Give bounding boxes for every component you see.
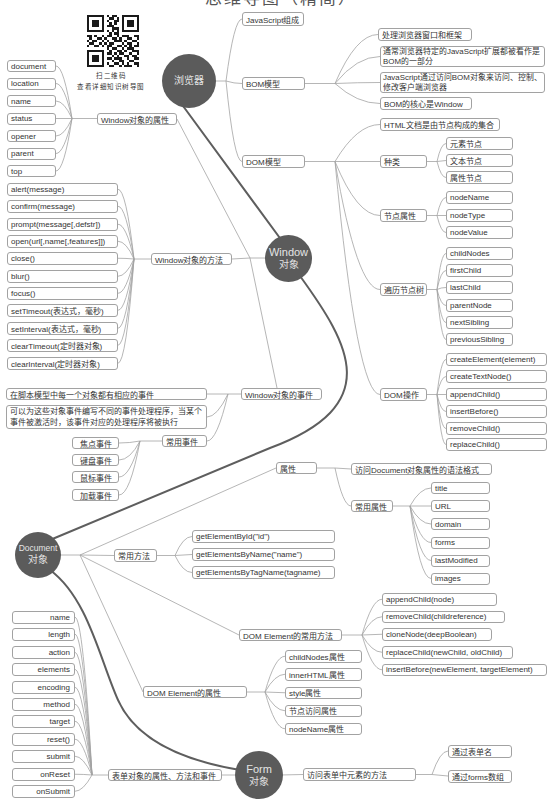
window-methods-topic: Window对象的方法 bbox=[151, 253, 232, 265]
dom-traverse-item: firstChild bbox=[446, 264, 513, 277]
window-method-item: setTimeout(表达式，毫秒) bbox=[7, 304, 118, 317]
connector bbox=[437, 144, 446, 162]
connector bbox=[335, 162, 380, 216]
form-object-label-line2: 对象 bbox=[249, 776, 269, 788]
dom-node-prop-item: nodeType bbox=[446, 209, 513, 222]
connector bbox=[335, 468, 351, 469]
form-access-topic: 访问表单中元素的方法 bbox=[303, 768, 416, 781]
browser-topic-circle: 浏览器 bbox=[162, 54, 216, 108]
node-js-composition: JavaScript组成 bbox=[242, 12, 304, 26]
window-method-item: setInterval(表达式，毫秒) bbox=[7, 322, 118, 335]
document-object-label-line2: 对象 bbox=[28, 554, 48, 566]
dom-op-item: createTextNode() bbox=[446, 370, 547, 383]
connector bbox=[207, 394, 228, 441]
form-member-item: action bbox=[12, 646, 75, 659]
connector bbox=[335, 125, 380, 162]
common-events-topic: 常用事件 bbox=[162, 435, 207, 447]
form-member-item: elements bbox=[12, 663, 75, 676]
dom-traverse-item: previousSibling bbox=[446, 333, 513, 346]
common-event-item: 焦点事件 bbox=[72, 437, 119, 449]
connector bbox=[437, 198, 446, 216]
browser-topic-label: 浏览器 bbox=[174, 75, 204, 87]
dom-element-methods-topic: DOM Element的常用方法 bbox=[239, 629, 342, 641]
dom-element-method-item: cloneNode(deepBoolean) bbox=[382, 628, 492, 641]
window-property-item: name bbox=[7, 95, 56, 107]
dom-node-prop-item: nodeName bbox=[446, 191, 513, 204]
form-member-item: reset() bbox=[12, 733, 75, 746]
dom-element-property-item: childNodes属性 bbox=[285, 650, 362, 663]
form-object-circle: Form 对象 bbox=[235, 751, 283, 799]
document-object-circle: Document 对象 bbox=[15, 532, 61, 578]
connector bbox=[437, 216, 446, 233]
document-method-item: getElementById("id") bbox=[192, 530, 335, 543]
qr-code-icon bbox=[86, 15, 140, 67]
dom-intro: HTML文档是由节点构成的集合 bbox=[380, 118, 500, 131]
dom-node-prop-item: nodeValue bbox=[446, 226, 513, 239]
connector bbox=[175, 556, 192, 573]
window-events-topic: Window对象的事件 bbox=[241, 388, 322, 400]
connector bbox=[335, 468, 351, 506]
form-access-item: 通过表单名 bbox=[448, 745, 512, 758]
document-properties-topic: 属性 bbox=[276, 462, 317, 474]
dom-element-method-item: removeChild(childreference) bbox=[382, 611, 505, 624]
connector bbox=[410, 488, 431, 506]
window-object-label-line1: Window bbox=[269, 246, 308, 259]
window-property-item: document bbox=[7, 60, 56, 72]
form-member-item: onReset bbox=[12, 768, 75, 781]
dom-kinds: 种类 bbox=[380, 155, 427, 168]
bom-item: 通常浏览器特定的JavaScript扩展都被看作是BOM的一部分 bbox=[380, 46, 545, 67]
dom-op-item: replaceChild() bbox=[446, 438, 547, 451]
dom-op-item: appendChild() bbox=[446, 388, 547, 401]
bom-item: JavaScript通过访问BOM对象来访问、控制、修改客户端浏览器 bbox=[380, 72, 545, 93]
bom-item: BOM的核心是Window bbox=[380, 97, 472, 110]
node-bom-model: BOM模型 bbox=[242, 77, 305, 90]
connector bbox=[265, 692, 285, 693]
form-object-label-line1: Form bbox=[246, 763, 272, 776]
window-property-item: status bbox=[7, 113, 56, 125]
dom-op-item: createElement(element) bbox=[446, 353, 547, 366]
window-method-item: clearTimeout(定时器对象) bbox=[7, 339, 118, 352]
common-event-item: 键盘事件 bbox=[72, 454, 119, 466]
bom-item: 处理浏览器窗口和框架 bbox=[378, 28, 472, 41]
window-properties-topic: Window对象的属性 bbox=[97, 113, 177, 125]
connector bbox=[175, 555, 192, 556]
connector bbox=[335, 57, 380, 84]
connector bbox=[432, 775, 448, 777]
window-property-item: top bbox=[7, 165, 56, 177]
window-event-note: 可以为这些对象事件编写不同的事件处理程序，当某个事件被激活时，该事件对应的处理程… bbox=[6, 405, 207, 429]
window-object-central-circle: Window 对象 bbox=[265, 235, 312, 282]
dom-traverse-item: nextSibling bbox=[446, 316, 513, 329]
document-common-methods-topic: 常用方法 bbox=[114, 549, 157, 562]
mind-map-canvas: 思维导图（精简） 扫二维码 查看详细知识树导图 浏览器 Window 对象 Do… bbox=[0, 0, 551, 803]
dom-op-item: insertBefore() bbox=[446, 405, 547, 418]
dom-traverse-item: lastChild bbox=[446, 281, 513, 294]
document-object-label-line1: Document bbox=[19, 544, 58, 554]
document-common-property-item: URL bbox=[431, 500, 490, 512]
document-common-property-item: domain bbox=[431, 518, 490, 530]
document-method-item: getElementsByTagName(tagname) bbox=[192, 566, 335, 579]
common-event-item: 鼠标事件 bbox=[72, 471, 119, 483]
connector bbox=[432, 751, 448, 775]
window-method-item: prompt(message[,defstr]) bbox=[7, 218, 118, 231]
connector bbox=[362, 634, 382, 635]
connector bbox=[118, 258, 134, 259]
window-event-note: 在脚本模型中每一个对象都有相应的事件 bbox=[6, 388, 207, 400]
dom-element-method-item: insertBefore(newElement, targetElement) bbox=[382, 664, 547, 677]
form-member-item: submit bbox=[12, 750, 75, 763]
window-property-item: parent bbox=[7, 148, 56, 160]
dom-element-method-item: replaceChild(newChild, oldChild) bbox=[382, 646, 513, 659]
form-member-item: encoding bbox=[12, 681, 75, 694]
connector bbox=[437, 288, 446, 290]
window-method-item: clearInterval(定时器对象) bbox=[7, 357, 118, 370]
document-method-item: getElementsByName("name") bbox=[192, 548, 335, 561]
map-title: 思维导图（精简） bbox=[205, 0, 357, 7]
window-object-label-line2: 对象 bbox=[279, 259, 299, 271]
connector-document-form bbox=[50, 570, 240, 770]
connector bbox=[437, 161, 446, 162]
dom-element-properties-topic: DOM Element的属性 bbox=[143, 686, 247, 698]
connector bbox=[177, 119, 250, 258]
connector bbox=[80, 555, 114, 556]
connector bbox=[280, 775, 303, 776]
window-method-item: open(url[,name[,features]]) bbox=[7, 235, 118, 248]
document-common-property-item: lastModified bbox=[431, 555, 490, 567]
